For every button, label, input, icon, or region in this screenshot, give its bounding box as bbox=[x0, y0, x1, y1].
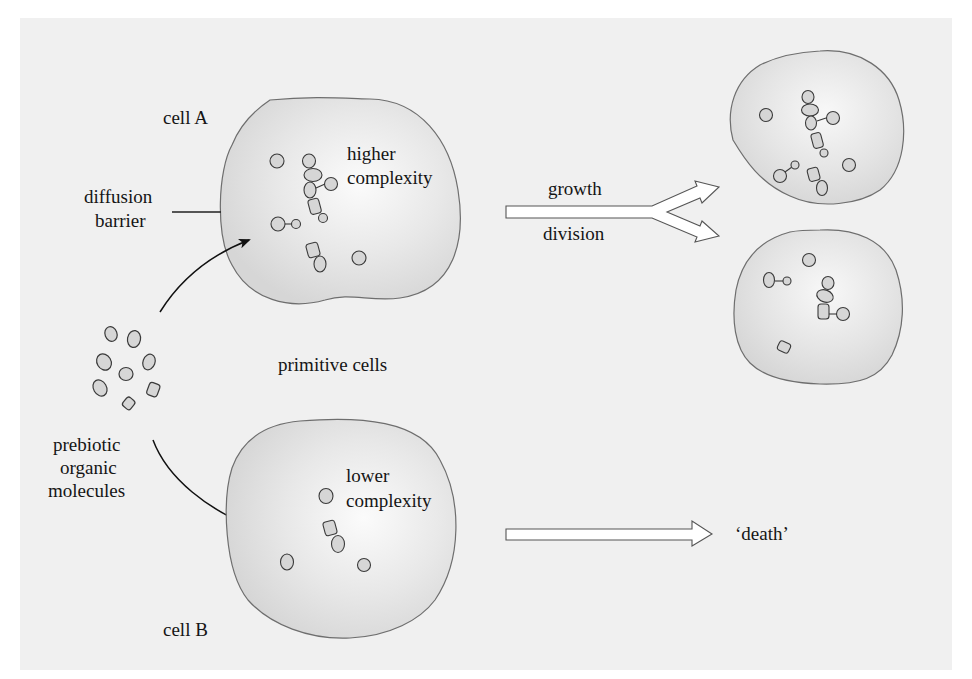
cell-a-membrane bbox=[220, 98, 460, 304]
primitive-cells-label: primitive cells bbox=[278, 354, 387, 375]
cell-b-label: cell B bbox=[163, 619, 208, 640]
death-label: ‘death’ bbox=[735, 523, 789, 544]
growth-label: growth bbox=[548, 178, 602, 199]
cell-a-label: cell A bbox=[163, 107, 208, 128]
higher-complexity-label-line1: higher bbox=[347, 143, 396, 164]
prebiotic-label: prebiotic organic molecules bbox=[48, 434, 125, 501]
cell-b-membrane bbox=[226, 419, 456, 638]
prebiotic-label-line2: organic bbox=[60, 457, 117, 478]
division-label: division bbox=[543, 223, 605, 244]
higher-complexity-label-line2: complexity bbox=[347, 167, 433, 188]
diffusion-barrier-label-line1: diffusion bbox=[84, 186, 153, 207]
lower-complexity-label-line1: lower bbox=[346, 465, 390, 486]
prebiotic-label-line3: molecules bbox=[48, 480, 125, 501]
lower-complexity-label-line2: complexity bbox=[346, 490, 432, 511]
daughter-cell-2 bbox=[734, 230, 902, 384]
diffusion-barrier-label-line2: barrier bbox=[95, 210, 146, 231]
diagram-canvas: cell A higher complexity diffusion barri… bbox=[0, 0, 972, 679]
prebiotic-label-line1: prebiotic bbox=[53, 434, 121, 455]
